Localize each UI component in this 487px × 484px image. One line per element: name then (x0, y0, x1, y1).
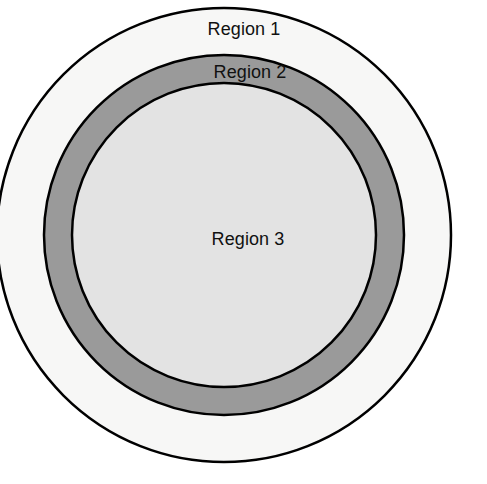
region-1-label: Region 1 (208, 19, 281, 39)
region-3-label: Region 3 (212, 229, 285, 249)
concentric-region-diagram: Region 1 Region 2 Region 3 (0, 0, 487, 484)
region-2-label: Region 2 (214, 62, 287, 82)
